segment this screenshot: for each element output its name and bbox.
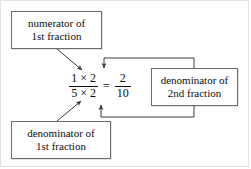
diagram-canvas: numerator of 1st fraction denominator of… [0,0,251,169]
callout-line-1: numerator of [28,17,85,30]
right-fraction-denominator: 10 [115,87,131,100]
equals-sign: = [103,79,110,94]
callout-line-2: 2nd fraction [168,87,221,100]
callout-denominator-1st-fraction: denominator of 1st fraction [11,121,111,159]
callout-line-2: 1st fraction [32,30,82,43]
right-fraction-numerator: 2 [118,72,128,85]
right-fraction: 2 10 [115,72,131,100]
denominator-2nd-bottom-arrow [101,105,194,117]
denominator-1st-arrow [57,101,81,121]
numerator-1st-arrow [57,49,82,70]
left-fraction-numerator: 1 × 2 [69,72,98,85]
left-fraction: 1 × 2 5 × 2 [69,72,98,100]
callout-numerator-1st-fraction: numerator of 1st fraction [11,11,102,49]
callout-line-1: denominator of [27,127,95,140]
callout-line-1: denominator of [161,74,229,87]
callout-denominator-2nd-fraction: denominator of 2nd fraction [151,68,238,106]
left-fraction-denominator: 5 × 2 [69,87,98,100]
denominator-2nd-top-arrow [104,58,194,68]
fraction-equation: 1 × 2 5 × 2 = 2 10 [60,70,140,102]
callout-line-2: 1st fraction [36,140,86,153]
